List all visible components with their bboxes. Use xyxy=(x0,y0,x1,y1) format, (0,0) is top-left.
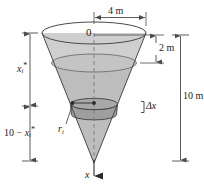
label-remaining-lift-star: * xyxy=(31,125,35,134)
bracket-delta-x xyxy=(141,102,144,113)
label-total-depth: 10 m xyxy=(183,91,203,101)
label-x-axis: x xyxy=(85,170,89,180)
label-top-diameter: 4 m xyxy=(108,6,123,16)
label-disk-radius-sub: i xyxy=(62,128,64,135)
cone-tank-figure: 4 m 0 2 m 10 m xi* 10 − xi* Δx ri x xyxy=(0,0,204,189)
left-dimension-stack xyxy=(22,33,38,161)
label-origin: 0 xyxy=(86,27,92,38)
figure-canvas xyxy=(0,0,204,189)
label-depth-to-slab: xi* xyxy=(17,62,27,75)
label-depth-to-slab-star: * xyxy=(23,61,27,70)
label-remaining-lift: 10 − xi* xyxy=(4,126,35,139)
label-slab-thickness: Δx xyxy=(146,101,156,111)
label-disk-radius: ri xyxy=(58,124,64,135)
label-freeboard: 2 m xyxy=(159,43,174,53)
label-remaining-lift-prefix: 10 − xyxy=(4,127,25,138)
slab-thickness-bracket xyxy=(141,102,144,113)
disk-slab xyxy=(71,98,118,119)
